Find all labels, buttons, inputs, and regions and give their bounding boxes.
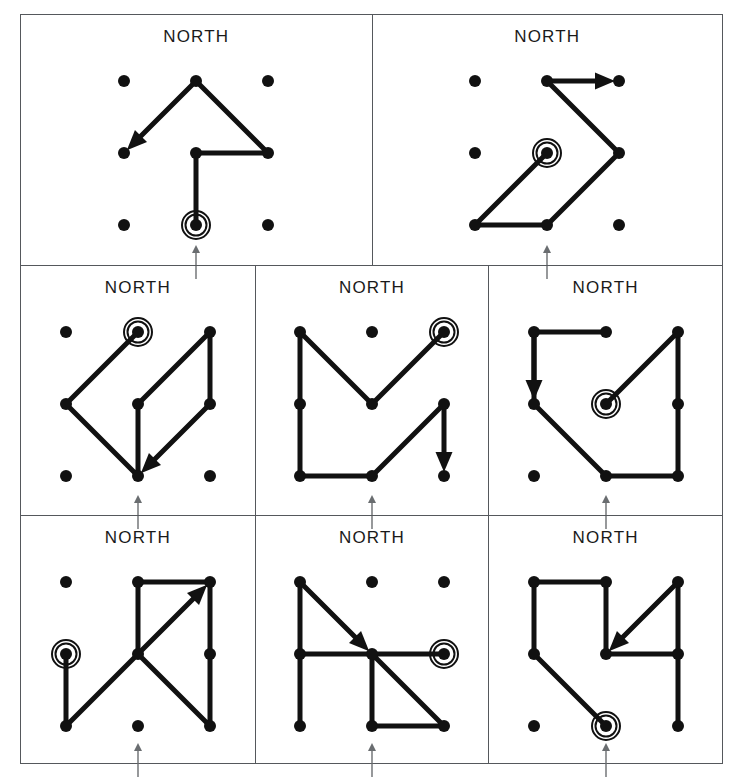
panel-6: NORTH xyxy=(21,516,255,763)
panel-7: NORTH xyxy=(255,516,489,763)
dot-grid-svg xyxy=(508,556,704,752)
grid-dot-top-center xyxy=(366,326,378,338)
grid-dot-top-right xyxy=(438,576,450,588)
grid-dot-bottom-center xyxy=(132,470,144,482)
grid-dot-bottom-left xyxy=(294,470,306,482)
grid-dot-top-center xyxy=(132,576,144,588)
grid-dot-top-right xyxy=(204,326,216,338)
north-label: NORTH xyxy=(489,528,722,548)
north-label: NORTH xyxy=(256,278,489,298)
dot-grid-svg xyxy=(40,556,236,752)
grid-dot-left-middle xyxy=(469,147,481,159)
north-label: NORTH xyxy=(373,27,723,47)
route-arrow-segment xyxy=(300,582,359,641)
grid-dot-right-middle xyxy=(438,398,450,410)
grid-dot-bottom-right xyxy=(204,720,216,732)
north-label: NORTH xyxy=(21,528,255,548)
grid-dot-bottom-right xyxy=(672,720,684,732)
grid-dot-top-center xyxy=(600,326,612,338)
panel-row-bottom: NORTH NORTH NORTH xyxy=(21,515,722,763)
grid-dot-left-middle xyxy=(294,398,306,410)
grid-dot-top-right xyxy=(672,326,684,338)
dot-grid-svg xyxy=(508,306,704,502)
grid-dot-bottom-left xyxy=(118,219,130,231)
grid-dot-top-right xyxy=(262,75,274,87)
north-label: NORTH xyxy=(489,278,722,298)
route-arrow-segment xyxy=(138,595,197,654)
panel-row-top: NORTH NORTH xyxy=(21,15,722,265)
north-label: NORTH xyxy=(21,278,255,298)
grid-dot-bottom-left xyxy=(60,470,72,482)
grid-dot-bottom-left xyxy=(469,219,481,231)
dot-grid-svg xyxy=(274,306,470,502)
panel-row-middle: NORTH NORTH NORTH xyxy=(21,265,722,515)
panel-5: NORTH xyxy=(488,266,722,515)
dot-grid-svg xyxy=(98,55,294,251)
north-label: NORTH xyxy=(21,27,372,47)
panel-3: NORTH xyxy=(21,266,255,515)
grid-dot-bottom-left xyxy=(528,720,540,732)
route-arrow-segment xyxy=(151,404,210,463)
grid-dot-left-middle xyxy=(528,398,540,410)
grid-dot-top-center xyxy=(600,576,612,588)
grid-dot-bottom-right xyxy=(438,470,450,482)
grid-dot-right-middle xyxy=(204,398,216,410)
grid-dot-bottom-right xyxy=(204,470,216,482)
grid-dot-bottom-center xyxy=(366,720,378,732)
grid-dot-bottom-center xyxy=(366,470,378,482)
grid-dot-bottom-left xyxy=(60,720,72,732)
grid-dot-center xyxy=(600,398,612,410)
grid-dot-top-left xyxy=(118,75,130,87)
route-arrow-segment xyxy=(138,81,197,140)
dot-grid-svg xyxy=(449,55,645,251)
grid-dot-top-right xyxy=(438,326,450,338)
grid-dot-left-middle xyxy=(118,147,130,159)
grid-dot-top-center xyxy=(190,75,202,87)
grid-dot-right-middle xyxy=(438,648,450,660)
grid-dot-bottom-center xyxy=(541,219,553,231)
grid-dot-bottom-right xyxy=(438,720,450,732)
grid-dot-bottom-right xyxy=(262,219,274,231)
panel-2: NORTH xyxy=(372,15,723,265)
grid-dot-left-middle xyxy=(294,648,306,660)
grid-dot-top-center xyxy=(366,576,378,588)
grid-dot-bottom-center xyxy=(190,219,202,231)
grid-dot-right-middle xyxy=(262,147,274,159)
grid-dot-center xyxy=(600,648,612,660)
grid-dot-bottom-center xyxy=(132,720,144,732)
panel-4: NORTH xyxy=(255,266,489,515)
route-arrow-segment xyxy=(619,582,678,641)
panel-1: NORTH xyxy=(21,15,372,265)
grid-dot-center xyxy=(132,648,144,660)
grid-dot-top-left xyxy=(528,326,540,338)
grid-dot-bottom-right xyxy=(613,219,625,231)
grid-dot-top-center xyxy=(132,326,144,338)
north-label: NORTH xyxy=(256,528,489,548)
grid-dot-top-right xyxy=(672,576,684,588)
grid-dot-right-middle xyxy=(672,648,684,660)
grid-dot-top-left xyxy=(60,326,72,338)
grid-dot-center xyxy=(132,398,144,410)
grid-dot-top-right xyxy=(613,75,625,87)
grid-dot-bottom-center xyxy=(600,470,612,482)
grid-dot-top-center xyxy=(541,75,553,87)
panel-8: NORTH xyxy=(488,516,722,763)
grid-dot-left-middle xyxy=(60,648,72,660)
grid-dot-center xyxy=(366,398,378,410)
grid-dot-left-middle xyxy=(60,398,72,410)
grid-dot-top-right xyxy=(204,576,216,588)
grid-dot-top-left xyxy=(60,576,72,588)
up-arrow-icon xyxy=(365,743,379,777)
grid-dot-center xyxy=(366,648,378,660)
grid-dot-right-middle xyxy=(204,648,216,660)
grid-dot-center xyxy=(190,147,202,159)
grid-dot-top-left xyxy=(469,75,481,87)
grid-dot-bottom-left xyxy=(294,720,306,732)
grid-dot-left-middle xyxy=(528,648,540,660)
up-arrow-icon xyxy=(131,743,145,777)
grid-dot-top-left xyxy=(294,576,306,588)
dot-grid-svg xyxy=(40,306,236,502)
figure-frame: NORTH NORTH NORTH NORTH NORTH NORTH xyxy=(20,14,723,764)
grid-dot-top-left xyxy=(294,326,306,338)
route-path xyxy=(196,81,268,225)
